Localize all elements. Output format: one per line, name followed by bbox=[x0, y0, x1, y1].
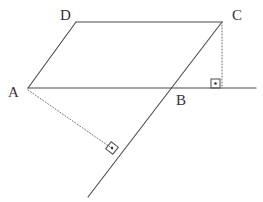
right-angle-dot-on-BC bbox=[110, 146, 114, 150]
vertex-label-c: C bbox=[232, 8, 242, 23]
vertex-label-b: B bbox=[176, 93, 186, 108]
side-AD-line bbox=[28, 22, 76, 88]
right-angle-marker-on-AB bbox=[211, 79, 220, 88]
right-angle-marker-on-BC bbox=[106, 142, 119, 155]
line-through-B-and-C bbox=[88, 22, 222, 197]
right-angle-dot-on-AB bbox=[214, 82, 217, 85]
vertex-label-a: A bbox=[8, 85, 19, 100]
solid-segments-group bbox=[28, 22, 256, 197]
perpendicular-from-A-to-line-BC-line bbox=[28, 90, 113, 149]
dotted-segments-group bbox=[28, 22, 222, 149]
diagram-canvas: A B C D bbox=[0, 0, 263, 202]
vertex-label-d: D bbox=[60, 8, 71, 23]
geometry-figure bbox=[0, 0, 263, 202]
